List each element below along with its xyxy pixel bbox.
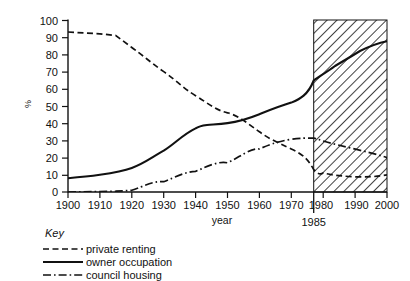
y-tick-label-50: 50 xyxy=(46,101,58,113)
x-tick-label-1970: 1970 xyxy=(279,199,303,211)
y-tick-label-20: 20 xyxy=(46,152,58,164)
y-axis-title: % xyxy=(23,100,33,108)
y-tick-label-30: 30 xyxy=(46,135,58,147)
x-tick-label-2000: 2000 xyxy=(375,199,399,211)
chart-figure: 100 90 80 70 60 50 40 30 20 10 0 % 1900 … xyxy=(0,0,410,281)
x-tick-label-1910: 1910 xyxy=(88,199,112,211)
y-tick-label-60: 60 xyxy=(46,83,58,95)
x-tick-label-1900: 1900 xyxy=(56,199,80,211)
x-tick-label-1940: 1940 xyxy=(183,199,207,211)
projection-region xyxy=(314,20,387,192)
x-tick-label-1930: 1930 xyxy=(151,199,175,211)
y-tick-label-40: 40 xyxy=(46,118,58,130)
x-axis-title: year xyxy=(212,214,233,226)
legend-title: Key xyxy=(45,227,65,239)
x-tick-label-1990: 1990 xyxy=(344,199,368,211)
legend-label-owner-occupation: owner occupation xyxy=(86,256,172,268)
y-tick-label-100: 100 xyxy=(40,15,58,27)
legend-label-private-renting: private renting xyxy=(86,243,156,255)
legend-label-council-housing: council housing xyxy=(86,269,162,281)
y-tick-label-10: 10 xyxy=(46,169,58,181)
y-tick-label-90: 90 xyxy=(46,32,58,44)
chart-svg: 100 90 80 70 60 50 40 30 20 10 0 % 1900 … xyxy=(0,0,410,281)
projection-marker-label: 1985 xyxy=(301,216,325,228)
x-tick-label-1920: 1920 xyxy=(120,199,144,211)
x-tick-label-1960: 1960 xyxy=(247,199,271,211)
y-ticks xyxy=(62,21,68,193)
x-tick-label-1980: 1980 xyxy=(309,199,333,211)
y-tick-label-80: 80 xyxy=(46,49,58,61)
y-tick-label-0: 0 xyxy=(52,186,58,198)
y-tick-label-70: 70 xyxy=(46,66,58,78)
x-tick-label-1950: 1950 xyxy=(215,199,239,211)
x-ticks xyxy=(68,192,387,198)
